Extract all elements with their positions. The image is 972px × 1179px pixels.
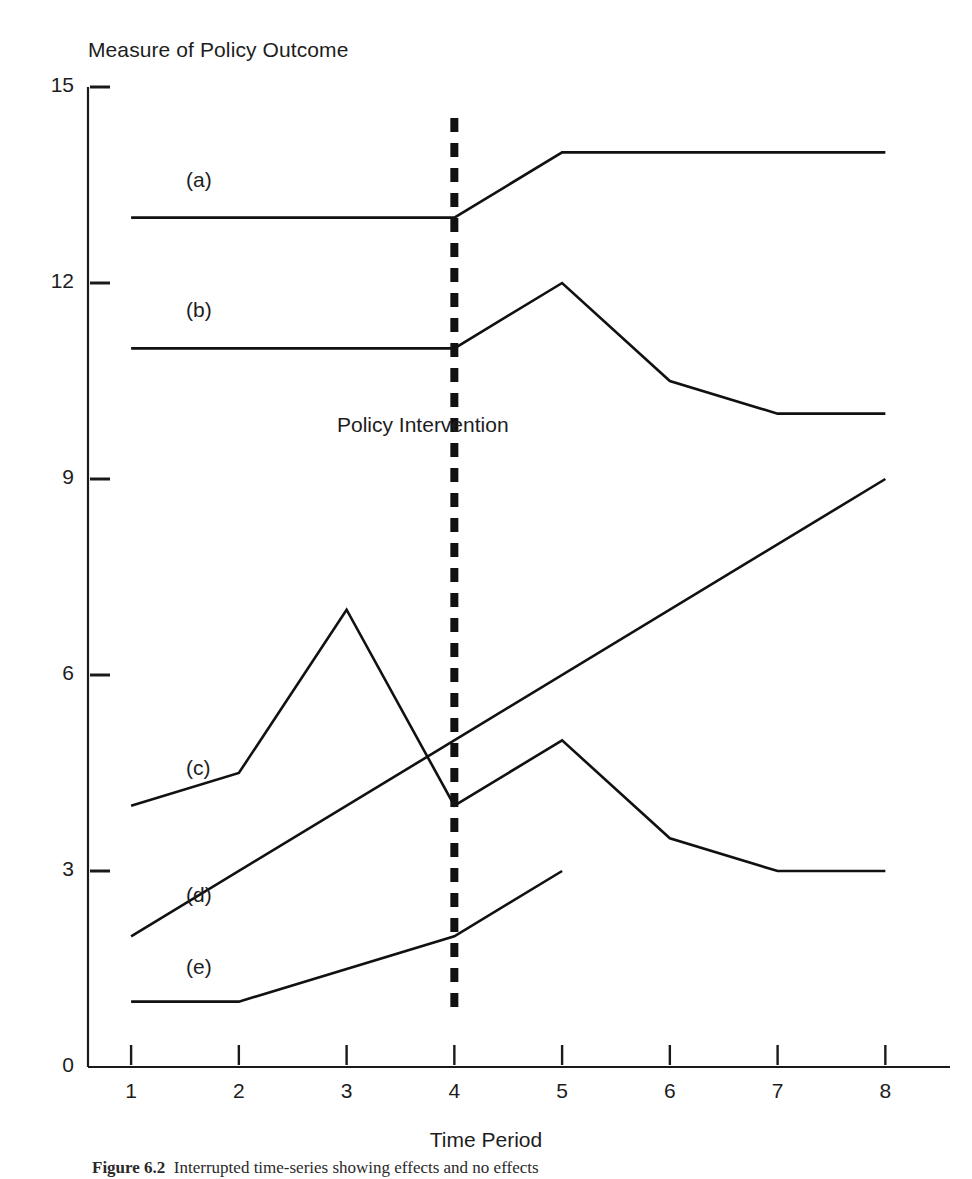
series-label-c: (c) (186, 756, 211, 780)
chart-axes (88, 87, 950, 1067)
figure-caption-number: Figure 6.2 (92, 1158, 165, 1177)
x-axis-tick-label: 6 (650, 1079, 690, 1103)
figure-caption-text: Interrupted time-series showing effects … (174, 1158, 539, 1177)
series-line-a (131, 152, 885, 217)
series-label-d: (d) (186, 883, 212, 907)
x-axis-tick-label: 2 (219, 1079, 259, 1103)
series-line-c (131, 610, 885, 871)
chart-series-lines (131, 152, 885, 1001)
y-axis-tick-label: 15 (28, 73, 74, 97)
x-axis-tick-label: 3 (327, 1079, 367, 1103)
x-axis-tick-label: 4 (434, 1079, 474, 1103)
x-axis-title: Time Period (0, 1128, 972, 1152)
x-axis-tick-label: 8 (865, 1079, 905, 1103)
series-label-b: (b) (186, 298, 212, 322)
y-axis-tick-label: 12 (28, 269, 74, 293)
x-axis-tick-label: 1 (111, 1079, 151, 1103)
y-axis-tick-label: 6 (28, 661, 74, 685)
series-label-e: (e) (186, 955, 212, 979)
y-axis-tick-label: 0 (28, 1053, 74, 1077)
figure-page: Measure of Policy Outcome 03691215 12345… (0, 0, 972, 1179)
figure-caption: Figure 6.2 Interrupted time-series showi… (92, 1158, 539, 1179)
series-label-a: (a) (186, 168, 212, 192)
chart-tick-marks (90, 87, 885, 1065)
series-line-d (131, 479, 885, 936)
line-chart-plot (0, 0, 972, 1179)
x-axis-tick-label: 7 (758, 1079, 798, 1103)
y-axis-tick-label: 3 (28, 857, 74, 881)
x-axis-tick-label: 5 (542, 1079, 582, 1103)
y-axis-tick-label: 9 (28, 465, 74, 489)
series-line-b (131, 283, 885, 414)
policy-intervention-label: Policy Intervention (337, 413, 509, 437)
